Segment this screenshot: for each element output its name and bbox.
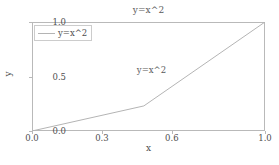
- x-tick-mark: [102, 131, 103, 134]
- y-tick-label: 0.5: [52, 72, 66, 82]
- y-tick-mark: [29, 22, 32, 23]
- x-tick-label: 0.0: [25, 133, 39, 143]
- y-axis-label: y: [3, 64, 13, 84]
- chart-title: y=x^2: [32, 5, 265, 15]
- y-tick-label: 0.0: [52, 126, 66, 136]
- x-tick-label: 0.3: [95, 133, 109, 143]
- x-axis-label: x: [32, 143, 265, 153]
- x-tick-mark: [32, 131, 33, 134]
- legend-line-sample-icon: [38, 33, 55, 34]
- x-tick-label: 0.6: [165, 133, 179, 143]
- x-tick-mark: [265, 131, 266, 134]
- legend-entry: y=x^2: [38, 28, 87, 38]
- x-tick-label: 1.0: [258, 133, 272, 143]
- y-tick-label: 1.0: [52, 17, 66, 27]
- legend-entry-label: y=x^2: [58, 28, 87, 38]
- plot-annotation-text: y=x^2: [137, 65, 166, 75]
- y-tick-mark: [29, 77, 32, 78]
- chart-figure: y=x^2 y=x^2 y=x^2 0.00.30.61.0 0.00.51.0…: [0, 0, 279, 165]
- chart-legend[interactable]: y=x^2: [34, 25, 92, 41]
- x-tick-mark: [172, 131, 173, 134]
- y-tick-mark: [29, 131, 32, 132]
